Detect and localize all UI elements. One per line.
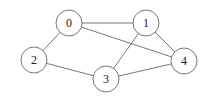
node-label: 0 [66,16,72,30]
node-label: 3 [103,72,109,86]
node-2: 2 [21,47,47,73]
node-label: 2 [31,53,37,67]
node-label: 1 [143,16,149,30]
node-1: 1 [133,10,159,36]
node-0: 0 [56,10,82,36]
edge-0-4 [69,23,184,61]
nodes-layer: 0 1 2 3 4 [21,10,197,92]
node-3: 3 [93,66,119,92]
graph-diagram: 0 1 2 3 4 [0,0,209,99]
node-4: 4 [171,48,197,74]
node-label: 4 [181,54,187,68]
